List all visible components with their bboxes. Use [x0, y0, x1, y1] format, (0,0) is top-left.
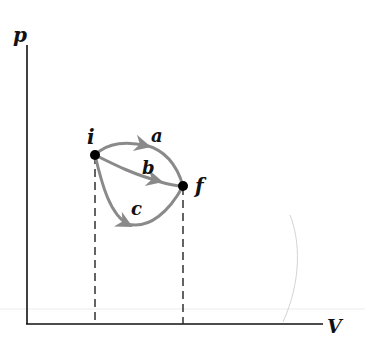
point-f — [178, 181, 188, 191]
path-c-label: c — [131, 198, 142, 219]
point-i — [90, 150, 100, 160]
path-a — [95, 143, 183, 186]
point-f-label: f — [193, 174, 207, 198]
point-i-label: i — [87, 125, 95, 149]
path-a-label: a — [151, 125, 163, 146]
x-axis-label: V — [327, 315, 344, 337]
y-axis-label: p — [13, 23, 27, 47]
faint-arc — [283, 215, 297, 322]
path-b-label: b — [142, 157, 155, 178]
pv-diagram: p V i f a b c — [0, 0, 365, 339]
